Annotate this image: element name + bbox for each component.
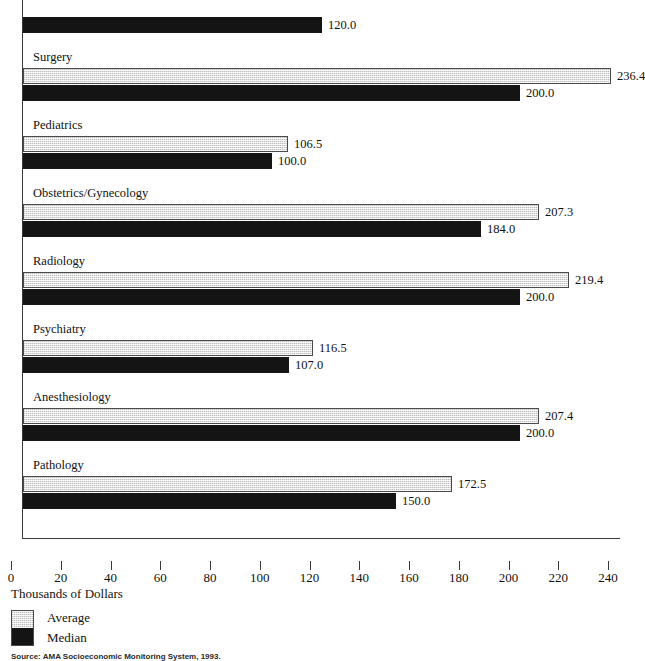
bar-median bbox=[23, 17, 322, 33]
x-axis-line bbox=[22, 538, 620, 539]
category-label: Pediatrics bbox=[33, 118, 82, 132]
bar-group: 120.0 bbox=[11, 0, 642, 50]
x-axis-tick-labels: 020406080100120140160180200220240 bbox=[0, 570, 631, 586]
bar-value-label: 219.4 bbox=[575, 273, 603, 287]
bar-group: Anesthesiology207.4200.0 bbox=[11, 390, 642, 458]
x-axis-tick-label: 120 bbox=[300, 570, 320, 585]
bar-value-label: 200.0 bbox=[526, 290, 554, 304]
bar-group: Psychiatry116.5107.0 bbox=[11, 322, 642, 390]
bar-median bbox=[23, 425, 520, 441]
bar-average bbox=[23, 476, 452, 492]
legend-swatch bbox=[11, 610, 34, 646]
x-axis-tick bbox=[509, 561, 510, 570]
bar-average bbox=[23, 340, 313, 356]
x-axis-tick-label: 240 bbox=[598, 570, 618, 585]
x-axis-tick bbox=[608, 561, 609, 570]
bar-average bbox=[23, 136, 288, 152]
bar-group: Pediatrics106.5100.0 bbox=[11, 118, 642, 186]
category-label: Radiology bbox=[33, 254, 85, 268]
x-axis-tick-label: 160 bbox=[399, 570, 419, 585]
bar-median bbox=[23, 357, 289, 373]
x-axis-tick-label: 60 bbox=[154, 570, 167, 585]
bar-group: Pathology172.5150.0 bbox=[11, 458, 642, 526]
plot-area: 120.0Surgery236.4200.0Pediatrics106.5100… bbox=[11, 0, 631, 561]
x-axis-tick bbox=[11, 561, 12, 570]
category-label: Surgery bbox=[33, 50, 72, 64]
bar-average bbox=[23, 68, 611, 84]
bar-average bbox=[23, 272, 569, 288]
bar-average bbox=[23, 204, 539, 220]
bar-value-label: 200.0 bbox=[526, 86, 554, 100]
x-axis-tick-label: 20 bbox=[54, 570, 67, 585]
legend-label-median: Median bbox=[47, 630, 87, 645]
x-axis-tick bbox=[459, 561, 460, 570]
bar-median bbox=[23, 153, 272, 169]
bar-value-label: 100.0 bbox=[278, 154, 306, 168]
bar-group: Obstetrics/Gynecology207.3184.0 bbox=[11, 186, 642, 254]
x-axis-tick-label: 100 bbox=[250, 570, 270, 585]
bar-value-label: 107.0 bbox=[295, 358, 323, 372]
x-axis-tick-label: 80 bbox=[204, 570, 217, 585]
x-axis-tick-label: 200 bbox=[499, 570, 519, 585]
x-axis-tick-label: 180 bbox=[449, 570, 469, 585]
legend-label-average: Average bbox=[47, 610, 90, 625]
x-axis-tick-label: 220 bbox=[549, 570, 569, 585]
x-axis-tick-label: 140 bbox=[350, 570, 370, 585]
category-label: Anesthesiology bbox=[33, 390, 111, 404]
legend-swatch-average bbox=[12, 611, 33, 628]
bar-group: Surgery236.4200.0 bbox=[11, 50, 642, 118]
bar-value-label: 116.5 bbox=[319, 341, 347, 355]
bar-average bbox=[23, 408, 539, 424]
category-label: Obstetrics/Gynecology bbox=[33, 186, 148, 200]
bar-value-label: 106.5 bbox=[294, 137, 322, 151]
x-axis-tick bbox=[111, 561, 112, 570]
source-note: Source: AMA Socioeconomic Monitoring Sys… bbox=[11, 652, 221, 661]
x-axis-tick bbox=[210, 561, 211, 570]
bar-value-label: 207.3 bbox=[545, 205, 573, 219]
bar-value-label: 184.0 bbox=[487, 222, 515, 236]
bar-value-label: 207.4 bbox=[545, 409, 573, 423]
bar-value-label: 200.0 bbox=[526, 426, 554, 440]
x-axis-tick-label: 0 bbox=[8, 570, 15, 585]
x-axis-tick-label: 40 bbox=[104, 570, 117, 585]
bar-value-label: 236.4 bbox=[617, 69, 645, 83]
x-axis-tick bbox=[160, 561, 161, 570]
category-label: Pathology bbox=[33, 458, 84, 472]
category-label: Psychiatry bbox=[33, 322, 86, 336]
x-axis-tick bbox=[409, 561, 410, 570]
bar-value-label: 172.5 bbox=[458, 477, 486, 491]
x-axis-tick bbox=[558, 561, 559, 570]
bar-value-label: 150.0 bbox=[402, 494, 430, 508]
x-axis-tick bbox=[359, 561, 360, 570]
bar-median bbox=[23, 221, 481, 237]
bar-median bbox=[23, 85, 520, 101]
x-axis-tick bbox=[260, 561, 261, 570]
x-axis-title: Thousands of Dollars bbox=[11, 586, 123, 601]
legend-swatch-median bbox=[12, 628, 33, 645]
bar-group: Radiology219.4200.0 bbox=[11, 254, 642, 322]
x-axis-tick bbox=[61, 561, 62, 570]
bar-median bbox=[23, 493, 396, 509]
bar-value-label: 120.0 bbox=[328, 18, 356, 32]
x-axis-tick bbox=[310, 561, 311, 570]
bar-median bbox=[23, 289, 520, 305]
